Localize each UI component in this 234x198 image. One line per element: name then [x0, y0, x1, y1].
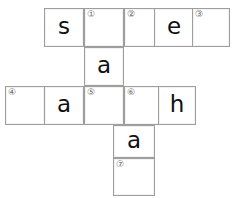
crossword-cell-r1c5[interactable]: ③ — [192, 8, 230, 47]
clue-number-r5c3: ⑦ — [116, 160, 124, 169]
crossword-cell-r3c0[interactable]: ④ — [5, 86, 45, 125]
crossword-cell-r1c2[interactable]: ① — [84, 8, 124, 47]
clue-number-r1c3: ② — [127, 10, 135, 19]
cell-letter-r1c1: s — [45, 9, 83, 46]
cell-letter-r3c1: a — [45, 87, 83, 124]
clue-number-r1c5: ③ — [195, 10, 203, 19]
crossword-cell-r1c1[interactable]: s — [44, 8, 84, 47]
crossword-cell-r3c4[interactable]: h — [158, 86, 196, 125]
cell-letter-r2c2: a — [85, 48, 123, 85]
crossword-cell-r1c4[interactable]: e — [154, 8, 194, 47]
crossword-cell-r5c3[interactable]: ⑦ — [113, 158, 155, 196]
clue-number-r3c0: ④ — [8, 88, 16, 97]
cell-letter-r4c3: a — [114, 126, 154, 157]
clue-number-r1c2: ① — [87, 10, 95, 19]
cell-letter-r3c4: h — [159, 87, 195, 124]
clue-number-r3c3: ⑥ — [127, 88, 135, 97]
crossword-cell-r3c2[interactable]: ⑤ — [84, 86, 124, 125]
crossword-cell-r2c2[interactable]: a — [84, 47, 124, 86]
cell-letter-r1c4: e — [155, 9, 193, 46]
clue-number-r3c2: ⑤ — [87, 88, 95, 97]
crossword-cell-r4c3[interactable]: a — [113, 125, 155, 158]
crossword-puzzle-grid: s①②e③a④a⑤⑥ha⑦ — [0, 0, 234, 198]
crossword-cell-r3c1[interactable]: a — [44, 86, 84, 125]
